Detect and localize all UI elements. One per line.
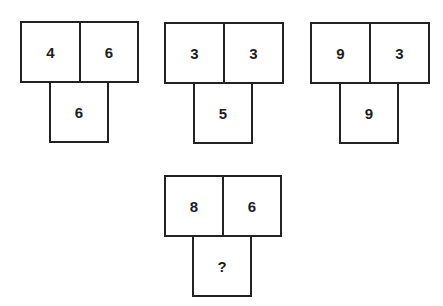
group-4-bottom-cell-unknown: ?	[192, 235, 252, 297]
group-3-top-right-cell: 3	[369, 22, 430, 84]
group-1-top-left-cell: 4	[20, 21, 81, 83]
group-2-top-right-cell: 3	[223, 22, 284, 84]
group-2-top-left-cell: 3	[164, 22, 225, 84]
group-3-bottom-cell: 9	[339, 82, 399, 144]
group-4-top-left-cell: 8	[164, 175, 224, 237]
group-1-top-right-cell: 6	[79, 21, 139, 83]
group-3-top-left-cell: 9	[310, 22, 371, 84]
group-4-top-right-cell: 6	[222, 175, 282, 237]
group-2-bottom-cell: 5	[193, 82, 253, 144]
group-1-bottom-cell: 6	[49, 81, 109, 143]
